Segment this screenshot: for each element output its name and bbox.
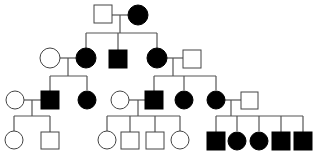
female-affected-IV-8 — [228, 132, 246, 150]
male-affected-IV-7 — [207, 132, 225, 150]
male-unaffected-IV-4 — [121, 132, 139, 149]
generation-4 — [5, 131, 312, 150]
male-unaffected-IV-2 — [41, 132, 59, 149]
male-affected-III-1 — [41, 91, 59, 109]
female-affected-II-1 — [76, 48, 96, 68]
female-unaffected-IV-1 — [5, 131, 23, 149]
female-affected-I-2 — [128, 5, 148, 25]
male-affected-II-2 — [109, 50, 127, 68]
female-unaffected-IV-6 — [171, 131, 189, 149]
female-affected-III-5 — [207, 91, 225, 109]
pedigree-chart — [0, 0, 313, 160]
male-affected-IV-10 — [272, 132, 290, 150]
female-unaffected-IV-3 — [98, 131, 116, 149]
male-unaffected-III-spouse-5 — [241, 92, 258, 109]
female-unaffected-III-spouse-1 — [6, 91, 24, 109]
male-unaffected-I-1 — [94, 5, 112, 23]
generation-1 — [94, 5, 148, 33]
female-affected-III-2 — [78, 91, 96, 109]
female-unaffected-II-spouse-1 — [40, 48, 60, 68]
generation-2 — [40, 48, 201, 76]
female-affected-III-4 — [175, 91, 193, 109]
male-unaffected-II-spouse-3 — [183, 50, 201, 68]
female-affected-IV-9 — [250, 132, 268, 150]
female-unaffected-III-spouse-3 — [111, 91, 129, 109]
male-affected-IV-11 — [294, 132, 312, 150]
female-affected-II-3 — [147, 48, 167, 68]
male-affected-III-3 — [145, 91, 163, 109]
male-unaffected-IV-5 — [146, 132, 164, 149]
generation-3 — [6, 91, 258, 116]
